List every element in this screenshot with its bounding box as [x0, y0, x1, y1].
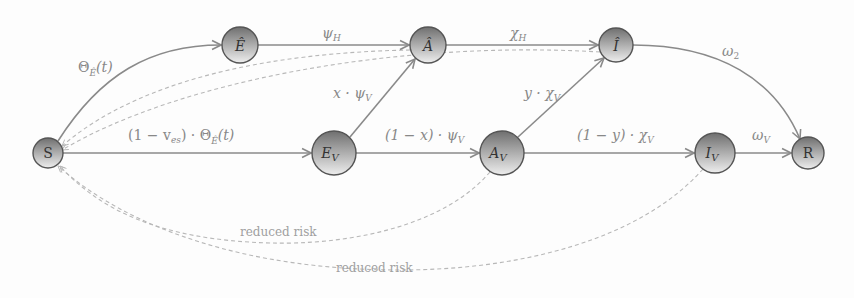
flow-diagram: ΘÊ(t) ψH χH ω2 (1 − ves) · ΘÊ(t) (1 − x)… [0, 0, 854, 298]
label-ev-ahat: x · ψV [333, 85, 373, 103]
label-ev-av: (1 − x) · ψV [385, 127, 466, 145]
edge-ihat-to-r [633, 45, 800, 139]
feedback-edges [58, 50, 703, 270]
label-reduced-risk-1: reduced risk [240, 225, 317, 239]
label-av-ihat: y · χV [523, 85, 562, 103]
svg-text:Â: Â [421, 37, 433, 54]
label-iv-r: ωV [752, 127, 771, 145]
node-i-v[interactable]: IV [695, 133, 735, 173]
svg-text:R: R [803, 145, 814, 161]
label-av-iv: (1 − y) · χV [577, 127, 655, 145]
label-s-ehat: ΘÊ(t) [78, 59, 113, 78]
label-ihat-r: ω2 [722, 43, 739, 61]
label-reduced-risk-2: reduced risk [336, 261, 413, 275]
node-e-v[interactable]: EV [312, 131, 356, 175]
label-ahat-ihat: χH [509, 25, 526, 43]
svg-text:S: S [43, 145, 53, 161]
label-s-ev: (1 − ves) · ΘÊ(t) [128, 127, 234, 146]
dashed-edge-iv-to-s [58, 166, 703, 270]
label-ehat-ahat: ψH [322, 25, 341, 43]
svg-text:Ê: Ê [234, 37, 245, 54]
node-s[interactable]: S [33, 138, 63, 168]
node-r[interactable]: R [792, 137, 824, 169]
diagram-canvas: ΘÊ(t) ψH χH ω2 (1 − ves) · ΘÊ(t) (1 − x)… [0, 0, 854, 298]
node-e-hat[interactable]: Ê [222, 27, 258, 63]
node-a-v[interactable]: AV [480, 131, 524, 175]
node-i-hat[interactable]: Î [599, 28, 633, 62]
node-a-hat[interactable]: Â [410, 27, 446, 63]
